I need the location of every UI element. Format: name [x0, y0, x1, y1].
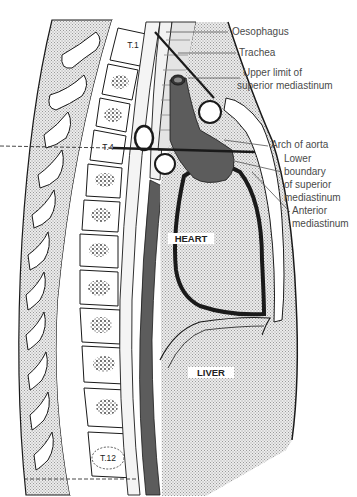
label-lower-boundary-1: Lower [284, 153, 312, 164]
label-liver: LIVER [197, 367, 225, 378]
aortic-arch-posterior [135, 126, 153, 150]
label-lower-boundary-4: mediastinum [284, 192, 341, 203]
aortic-arch-anterior [199, 101, 221, 123]
label-heart: HEART [175, 233, 208, 244]
label-upper-limit-1: Upper limit of [243, 67, 302, 78]
label-anterior-2: mediastinum [292, 218, 349, 229]
label-oesophagus: Oesophagus [232, 26, 289, 37]
descending-aorta [140, 180, 162, 495]
label-trachea: Trachea [239, 47, 276, 58]
label-arch-of-aorta: Arch of aorta [271, 139, 329, 150]
vessel-cross-section-top-inner [174, 78, 182, 83]
label-t12: T.12 [100, 453, 116, 463]
mediastinum-diagram: Oesophagus Trachea Upper limit of superi… [0, 0, 357, 497]
label-lower-boundary-3: of superior [284, 179, 332, 190]
label-anterior-1: Anterior [292, 205, 328, 216]
pulmonary-artery [155, 154, 175, 174]
label-t4: T.4 [102, 142, 114, 152]
label-lower-boundary-2: boundary [284, 166, 326, 177]
label-t1: T.1 [127, 40, 139, 50]
label-upper-limit-2: superior mediastinum [237, 80, 333, 91]
